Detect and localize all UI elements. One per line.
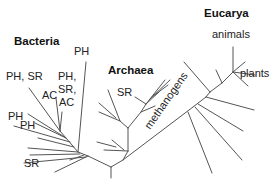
tree-labels: BacteriaArchaeaEucaryaPHPH, SRPH,SR,ACAC… bbox=[6, 7, 270, 169]
domain-label-bacteria: Bacteria bbox=[14, 35, 60, 47]
tree-branch bbox=[112, 140, 124, 150]
leaf-label: AC bbox=[59, 96, 74, 108]
tree-branch bbox=[30, 154, 80, 155]
tree-branch bbox=[210, 83, 222, 92]
tree-branch bbox=[60, 112, 62, 131]
leaf-label: SR bbox=[24, 157, 39, 169]
leaf-label: animals bbox=[212, 28, 250, 40]
leaf-label: AC bbox=[42, 89, 57, 101]
leaf-label: plants bbox=[240, 67, 270, 79]
tree-branch bbox=[222, 72, 233, 83]
tree-branch bbox=[195, 107, 242, 160]
tree-branch bbox=[128, 112, 141, 128]
tree-branch bbox=[206, 92, 210, 97]
tree-branch bbox=[35, 123, 66, 138]
tree-branch bbox=[193, 97, 206, 107]
phylogenetic-tree: BacteriaArchaeaEucaryaPHPH, SRPH,SR,ACAC… bbox=[0, 0, 278, 183]
tree-branch bbox=[216, 70, 222, 83]
leaf-label: PH, SR bbox=[6, 70, 43, 82]
leaf-label: PH bbox=[20, 119, 35, 131]
leaf-label: SR, bbox=[58, 83, 76, 95]
tree-branch bbox=[206, 97, 254, 110]
tree-branch bbox=[97, 142, 116, 147]
domain-label-archaea: Archaea bbox=[108, 64, 154, 76]
tree-branch bbox=[188, 112, 212, 173]
tree-branch bbox=[28, 148, 78, 152]
tree-branch bbox=[111, 160, 123, 167]
domain-label-eucarya: Eucarya bbox=[204, 7, 249, 19]
tree-branch bbox=[135, 97, 146, 104]
leaf-label: PH bbox=[74, 45, 89, 57]
leaf-label: SR bbox=[117, 86, 132, 98]
tree-branch bbox=[120, 121, 128, 128]
tree-branch bbox=[78, 62, 86, 152]
tree-branch bbox=[38, 138, 74, 147]
tree-branch bbox=[88, 156, 111, 167]
leaf-label: PH, bbox=[58, 70, 76, 82]
